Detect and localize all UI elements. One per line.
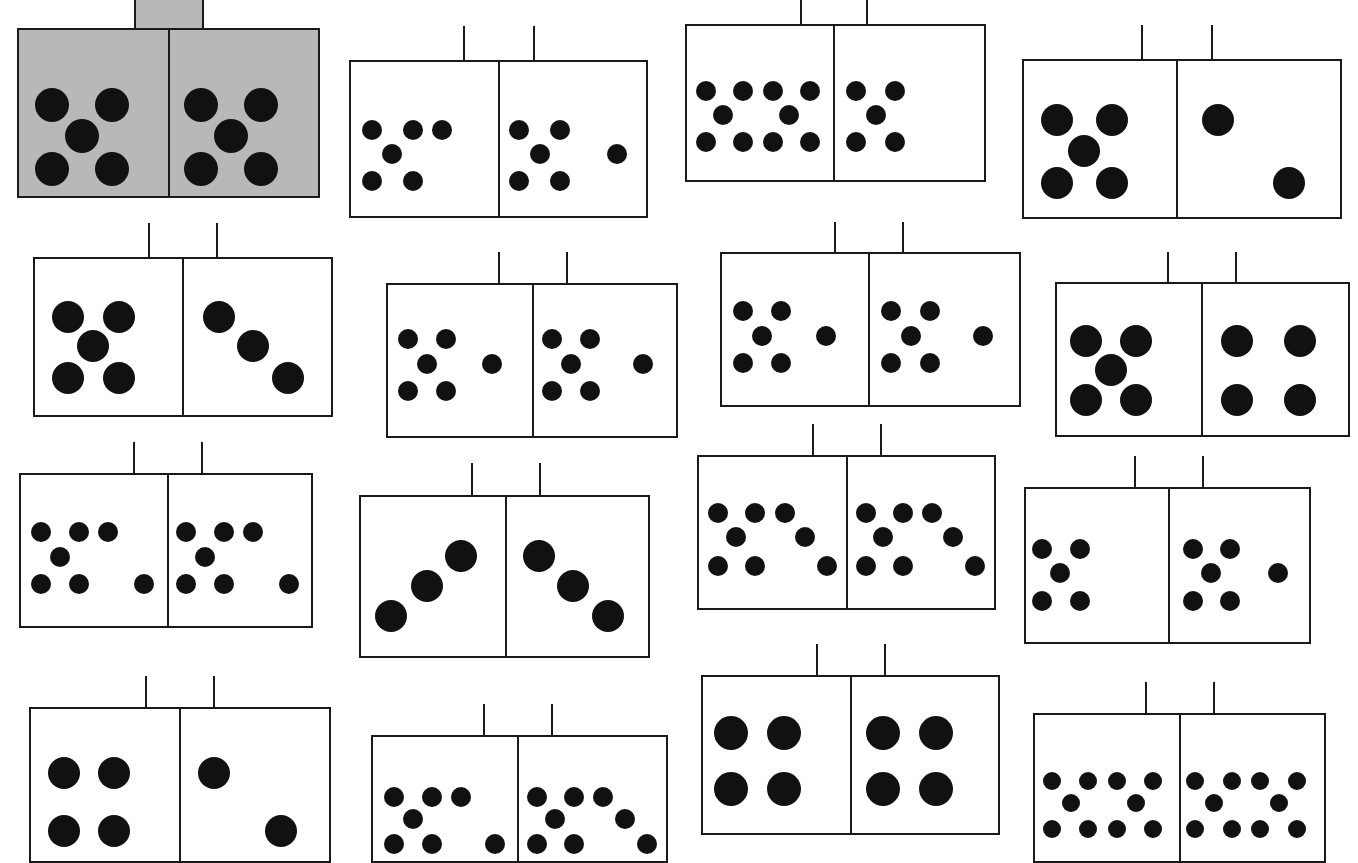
domino-half-right [180,709,329,861]
pip [31,522,51,542]
pip [1120,384,1152,416]
pip [65,119,99,153]
domino-half-right [847,457,995,608]
pip [881,353,901,373]
domino-tile[interactable] [685,24,986,182]
domino-half-left [1035,715,1180,861]
pip [885,132,905,152]
pip [1144,772,1162,790]
pip [1273,167,1305,199]
pip [98,815,130,847]
domino-tile[interactable] [1024,487,1311,644]
pip [708,503,728,523]
domino-half-left [687,26,836,180]
domino-tile[interactable] [701,675,1000,835]
pip [752,326,772,346]
domino-tab-notch [498,252,568,285]
domino-tile[interactable] [359,495,650,658]
domino-tile[interactable] [33,257,333,417]
pip [1068,135,1100,167]
pip [1186,820,1204,838]
domino-tile[interactable] [371,735,668,863]
pip [564,787,584,807]
pip [1095,354,1127,386]
pip [1202,104,1234,136]
pip [1221,325,1253,357]
domino-tile[interactable] [349,60,648,218]
pip [775,503,795,523]
pip [779,105,799,125]
pip [965,556,985,576]
domino-tile[interactable] [1055,282,1350,437]
pip [1288,820,1306,838]
domino-tile[interactable] [1033,713,1326,863]
domino-half-left [35,259,183,415]
domino-tile[interactable] [17,28,320,198]
pip [771,353,791,373]
pip [77,330,109,362]
pip [69,522,89,542]
pip [362,120,382,140]
pip [50,547,70,567]
pip [607,144,627,164]
domino-tab-notch [834,222,904,254]
pip [403,809,423,829]
pip [745,556,765,576]
pip [384,787,404,807]
domino-half-left [1026,489,1168,642]
pip [893,503,913,523]
pip [919,772,953,806]
pip [530,144,550,164]
pip [1183,539,1203,559]
pip [98,522,118,542]
pip [1070,591,1090,611]
domino-tile[interactable] [720,252,1021,407]
pip [593,787,613,807]
pip [561,354,581,374]
pip [272,362,304,394]
pip [398,381,418,401]
domino-half-right [505,497,649,656]
domino-tab-notch [1134,456,1204,489]
pip [244,88,278,122]
pip [696,132,716,152]
pip [550,120,570,140]
domino-tab-notch [133,442,203,475]
pip [95,152,129,186]
domino-tile[interactable] [1022,59,1342,219]
domino-tile[interactable] [19,473,313,628]
pip [920,301,940,321]
domino-half-left [19,30,169,196]
pip [708,556,728,576]
pip [1127,794,1145,812]
pip [767,772,801,806]
pip [714,772,748,806]
domino-tile[interactable] [386,283,678,438]
domino-tile[interactable] [29,707,331,863]
pip [1079,772,1097,790]
pip [763,132,783,152]
pip [1220,539,1240,559]
pip [103,301,135,333]
pip [422,834,442,854]
pip [1251,820,1269,838]
pip [403,171,423,191]
pip [580,381,600,401]
pip [922,503,942,523]
pip [1205,794,1223,812]
domino-half-right [183,259,331,415]
domino-half-right [1180,715,1325,861]
pip [134,574,154,594]
domino-half-left [351,62,499,216]
pip [1144,820,1162,838]
pip [893,556,913,576]
pip [564,834,584,854]
pip [885,81,905,101]
domino-half-left [1057,284,1203,435]
domino-tab-notch [1167,252,1237,284]
pip [451,787,471,807]
pip [184,152,218,186]
pip [795,527,815,547]
pip [866,105,886,125]
domino-tile[interactable] [697,455,996,610]
